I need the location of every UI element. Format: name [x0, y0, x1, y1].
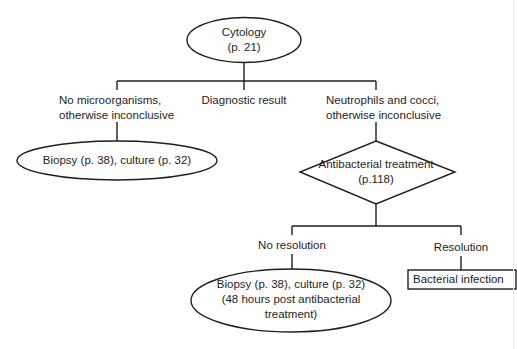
- post-treatment-biopsy-node: Biopsy (p. 38), culture (p. 32) (48 hour…: [217, 277, 365, 322]
- post-treatment-line2: (48 hours post antibacterial: [217, 292, 365, 307]
- branch-left-line2: otherwise inconclusive: [59, 108, 174, 123]
- post-treatment-line1: Biopsy (p. 38), culture (p. 32): [217, 277, 365, 292]
- branch-no-microorganisms: No microorganisms, otherwise inconclusiv…: [59, 93, 174, 123]
- cytology-label: Cytology: [222, 25, 267, 40]
- branch-neutrophils-cocci: Neutrophils and cocci, otherwise inconcl…: [326, 93, 441, 123]
- decision-page-ref: (p.118): [318, 172, 433, 187]
- post-treatment-line3: treatment): [217, 307, 365, 322]
- branch-diagnostic-result: Diagnostic result: [201, 93, 286, 108]
- outcome-no-resolution: No resolution: [258, 238, 326, 253]
- outcome-resolution: Resolution: [434, 240, 488, 255]
- branch-right-line2: otherwise inconclusive: [326, 108, 441, 123]
- flowchart: Cytology (p. 21) No microorganisms, othe…: [0, 0, 517, 349]
- antibacterial-treatment-decision: Antibacterial treatment (p.118): [318, 157, 433, 187]
- branch-right-line1: Neutrophils and cocci,: [326, 93, 441, 108]
- left-biopsy-culture-node: Biopsy (p. 38), culture (p. 32): [43, 153, 191, 168]
- branch-left-line1: No microorganisms,: [59, 93, 174, 108]
- decision-label: Antibacterial treatment: [318, 157, 433, 172]
- cytology-page-ref: (p. 21): [222, 40, 267, 55]
- bacterial-infection-node: Bacterial infection: [413, 272, 504, 287]
- cytology-node: Cytology (p. 21): [222, 25, 267, 55]
- page-edge-divider: [513, 0, 514, 349]
